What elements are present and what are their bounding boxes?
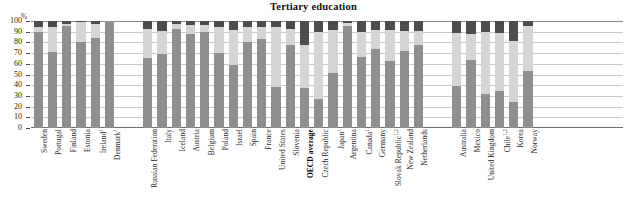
bar-segment-high bbox=[509, 21, 518, 41]
x-axis-label: Spain bbox=[250, 129, 257, 146]
bar-segment-mid bbox=[371, 30, 380, 49]
stacked-bar[interactable] bbox=[143, 21, 152, 128]
x-axis-label: Mexico bbox=[474, 129, 481, 152]
stacked-bar[interactable] bbox=[343, 21, 352, 128]
bar-segment-low bbox=[452, 86, 461, 128]
x-axis-label: Italy bbox=[165, 129, 172, 143]
x-axis-label: New Zealand bbox=[407, 129, 414, 170]
bar-segment-high bbox=[414, 21, 423, 31]
footnote-marker: 1 bbox=[98, 129, 104, 132]
bar-segment-low bbox=[343, 26, 352, 128]
bar-segment-high bbox=[481, 21, 490, 32]
x-axis-label: Austria bbox=[193, 129, 200, 151]
bar-segment-low bbox=[271, 87, 280, 128]
bar-segment-high bbox=[157, 21, 166, 31]
y-axis-tick-mark bbox=[26, 75, 30, 76]
tertiary-education-chart: Tertiary education % 0102030405060708090… bbox=[0, 0, 627, 211]
x-axis-label: Estonia bbox=[84, 129, 91, 152]
bar-segment-low bbox=[243, 42, 252, 128]
stacked-bar[interactable] bbox=[509, 21, 518, 128]
stacked-bar[interactable] bbox=[495, 21, 504, 128]
y-axis-tick-mark bbox=[26, 32, 30, 33]
stacked-bar[interactable] bbox=[91, 21, 100, 128]
stacked-bar[interactable] bbox=[214, 21, 223, 128]
x-axis-label: Israel bbox=[236, 129, 243, 146]
stacked-bar[interactable] bbox=[414, 21, 423, 128]
stacked-bar[interactable] bbox=[157, 21, 166, 128]
stacked-bar[interactable] bbox=[286, 21, 295, 128]
footnote-marker: 1 bbox=[112, 129, 118, 132]
bar-segment-mid bbox=[186, 25, 195, 34]
bar-segment-low bbox=[91, 38, 100, 128]
stacked-bar[interactable] bbox=[481, 21, 490, 128]
stacked-bar[interactable] bbox=[385, 21, 394, 128]
stacked-bar[interactable] bbox=[243, 21, 252, 128]
bar-segment-low bbox=[214, 53, 223, 128]
y-axis-tick-label: 0 bbox=[0, 124, 22, 132]
x-axis-label: Chile1,2 bbox=[502, 129, 512, 152]
bar-segment-mid bbox=[229, 30, 238, 65]
y-axis-tick-label: 80 bbox=[0, 38, 22, 46]
stacked-bar[interactable] bbox=[76, 21, 85, 128]
footnote-marker: 1 bbox=[336, 129, 342, 132]
bar-segment-low bbox=[186, 34, 195, 128]
stacked-bar[interactable] bbox=[271, 21, 280, 128]
x-axis-label: Denmark1 bbox=[112, 129, 122, 160]
y-axis-tick-label: 40 bbox=[0, 81, 22, 89]
bar-segment-low bbox=[157, 54, 166, 128]
stacked-bar[interactable] bbox=[62, 21, 71, 128]
x-axis-label: Belgium bbox=[208, 129, 215, 155]
bar-segment-high bbox=[385, 21, 394, 30]
bar-segment-low bbox=[481, 94, 490, 128]
bar-segment-high bbox=[466, 21, 475, 34]
stacked-bar[interactable] bbox=[229, 21, 238, 128]
bar-segment-low bbox=[357, 57, 366, 128]
y-axis-tick-label: 50 bbox=[0, 71, 22, 79]
stacked-bar[interactable] bbox=[48, 21, 57, 128]
bar-segment-low bbox=[34, 32, 43, 128]
stacked-bar[interactable] bbox=[34, 21, 43, 128]
stacked-bar[interactable] bbox=[523, 21, 532, 128]
stacked-bar[interactable] bbox=[314, 21, 323, 128]
stacked-bar[interactable] bbox=[257, 21, 266, 128]
y-axis-tick-mark bbox=[26, 53, 30, 54]
bar-segment-low bbox=[314, 99, 323, 128]
bar-segment-low bbox=[400, 51, 409, 128]
x-axis-label: Canada1 bbox=[364, 129, 374, 154]
bar-segment-high bbox=[400, 21, 409, 31]
stacked-bar[interactable] bbox=[172, 21, 181, 128]
y-axis-tick-label: 60 bbox=[0, 60, 22, 68]
bar-segment-mid bbox=[509, 41, 518, 102]
gridline bbox=[31, 64, 623, 65]
x-axis-label: Sweden bbox=[41, 129, 48, 153]
bar-segment-mid bbox=[523, 26, 532, 71]
stacked-bar[interactable] bbox=[328, 21, 337, 128]
stacked-bar[interactable] bbox=[371, 21, 380, 128]
x-axis-label: Russian Federation bbox=[151, 129, 158, 188]
x-axis-label: Poland bbox=[222, 129, 229, 150]
x-axis-label: Argentina bbox=[350, 129, 357, 159]
bar-segment-mid bbox=[243, 27, 252, 42]
stacked-bar[interactable] bbox=[400, 21, 409, 128]
stacked-bar[interactable] bbox=[357, 21, 366, 128]
stacked-bar[interactable] bbox=[466, 21, 475, 128]
gridline bbox=[31, 96, 623, 97]
footnote-marker: 1 bbox=[364, 129, 370, 132]
bar-segment-mid bbox=[481, 32, 490, 94]
x-axis-label: Norway bbox=[531, 129, 538, 153]
x-axis-label: United Kingdom bbox=[488, 129, 495, 180]
gridline bbox=[31, 107, 623, 108]
y-axis-tick-mark bbox=[26, 117, 30, 118]
stacked-bar[interactable] bbox=[300, 21, 309, 128]
stacked-bar[interactable] bbox=[186, 21, 195, 128]
stacked-bar[interactable] bbox=[452, 21, 461, 128]
bar-segment-mid bbox=[466, 34, 475, 60]
x-axis-label: Australia bbox=[460, 129, 467, 157]
stacked-bar[interactable] bbox=[105, 21, 114, 128]
bar-segment-high bbox=[286, 21, 295, 28]
bar-segment-low bbox=[466, 60, 475, 128]
chart-title: Tertiary education bbox=[0, 1, 627, 12]
bar-segment-low bbox=[286, 45, 295, 128]
stacked-bar[interactable] bbox=[200, 21, 209, 128]
y-axis-tick-mark bbox=[26, 128, 30, 129]
